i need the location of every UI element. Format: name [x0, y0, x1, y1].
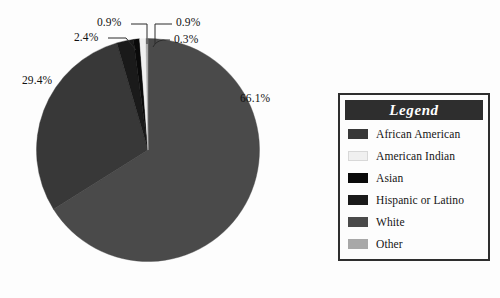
legend-box: Legend African AmericanAmerican IndianAs…	[338, 93, 490, 261]
legend-swatch-icon	[348, 195, 368, 205]
legend-item-label: White	[376, 216, 405, 228]
slice-label-other: 0.3%	[174, 33, 198, 45]
legend-item-other[interactable]: Other	[345, 233, 483, 255]
legend-swatch-icon	[348, 239, 368, 249]
legend-item-label: American Indian	[376, 150, 455, 162]
leader-line-other	[153, 40, 170, 47]
legend-item-label: African American	[376, 128, 460, 140]
slice-label-asian: 0.9%	[97, 16, 121, 28]
legend-swatch-icon	[348, 173, 368, 183]
legend-item-hispanic-or-latino[interactable]: Hispanic or Latino	[345, 189, 483, 211]
legend-item-american-indian[interactable]: American Indian	[345, 145, 483, 167]
slice-label-american-indian: 0.9%	[176, 16, 200, 28]
legend-item-label: Hispanic or Latino	[376, 194, 464, 206]
legend-swatch-icon	[348, 129, 368, 139]
legend-swatch-icon	[348, 151, 368, 161]
leader-line-american-indian	[155, 24, 172, 44]
legend-item-african-american[interactable]: African American	[345, 123, 483, 145]
legend-item-label: Other	[376, 238, 403, 250]
legend-item-label: Asian	[376, 172, 403, 184]
legend-swatch-icon	[348, 217, 368, 227]
chart-canvas: 66.1% 29.4% 2.4% 0.9% 0.9% 0.3% Legend A…	[0, 0, 500, 298]
legend-item-asian[interactable]: Asian	[345, 167, 483, 189]
slice-label-hispanic: 2.4%	[74, 31, 98, 43]
leader-line-asian	[131, 24, 147, 44]
legend-title: Legend	[345, 100, 483, 120]
slice-label-african-american: 29.4%	[22, 74, 52, 86]
legend-item-list: African AmericanAmerican IndianAsianHisp…	[345, 123, 483, 255]
leader-line-hispanic	[108, 38, 136, 50]
legend-item-white[interactable]: White	[345, 211, 483, 233]
slice-label-white: 66.1%	[240, 92, 270, 104]
